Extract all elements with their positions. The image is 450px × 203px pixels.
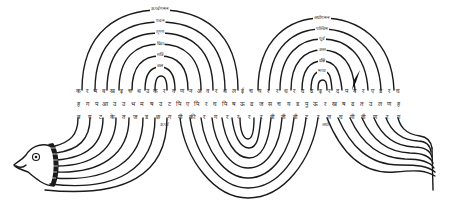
syllable: ब: [77, 112, 80, 122]
serpent-diagram: ऊर्ध्वगमन पवन तृष्ण दिवा रात्रि कल अधोगम…: [0, 0, 450, 203]
syllable: उ: [369, 99, 372, 109]
syllable: उ: [159, 99, 162, 109]
syllable: ष: [150, 99, 153, 109]
syllable: ष: [232, 99, 235, 109]
syllable: ढ: [351, 99, 354, 109]
syllable: र: [388, 86, 390, 96]
syllable: ड: [379, 86, 382, 96]
right-arch-label: मध्य: [317, 68, 327, 74]
syllable: प: [345, 86, 348, 96]
syllable: म: [140, 99, 144, 109]
syllable-row-bottom: बयटकेतजडछगगीकीरगररररवीतीवीटरलघगीवीणरग: [0, 112, 450, 122]
syllable: गी: [178, 112, 183, 122]
left-arch-label: कल: [156, 63, 164, 69]
left-arch-label: रात्रि: [156, 52, 164, 58]
syllable: त: [360, 99, 363, 109]
syllable: ज: [133, 112, 137, 122]
syllable: स: [268, 99, 272, 109]
syllable: ड: [145, 112, 148, 122]
syllable: च: [277, 99, 281, 109]
syllable-row-middle: हगपआउउभमषउटपिएपिरघपिषऊढजसचयडपुऊरखषढतउलणह: [0, 99, 450, 109]
syllable: ण: [387, 99, 391, 109]
syllable: उ: [301, 86, 304, 96]
left-arch-label: दिवा: [156, 41, 165, 47]
right-arch-label: पूर्व: [318, 36, 326, 42]
syllable: पु: [305, 99, 308, 109]
syllable: ट: [99, 112, 102, 122]
syllable: र: [276, 86, 278, 96]
syllable: ढ: [310, 86, 313, 96]
left-arch-label: तृष्ण: [155, 29, 165, 35]
syllable: र: [226, 112, 228, 122]
syllable: ग: [86, 99, 89, 109]
syllable: गी: [350, 112, 355, 122]
left-arch-label: पवन: [155, 18, 166, 24]
syllable: ख: [332, 99, 337, 109]
syllable: ख: [110, 86, 115, 96]
syllable: र: [205, 99, 207, 109]
syllable: इ: [319, 86, 322, 96]
syllable: ण: [373, 112, 377, 122]
syllable: भ: [93, 86, 97, 96]
syllable: क: [153, 86, 158, 96]
syllable: ड: [296, 99, 299, 109]
syllable: ब: [353, 86, 356, 96]
syllable: र: [293, 86, 295, 96]
syllable: क: [76, 86, 81, 96]
syllable: की: [189, 112, 196, 122]
side-label-left: ऊर्ध्व: [160, 122, 169, 128]
syllable-row-top: करभबखइचथउकरवणनअवरथलईचयररधरउढइरदपबरएडरघ: [0, 86, 450, 96]
syllable: च: [249, 86, 253, 96]
syllable: आ: [102, 99, 108, 109]
syllable: ज: [259, 99, 263, 109]
middle-u-lines: [180, 118, 318, 198]
syllable: भ: [131, 99, 135, 109]
syllable: च: [128, 86, 132, 96]
syllable: व: [206, 86, 209, 96]
syllable: र: [86, 86, 88, 96]
syllable: र: [328, 86, 330, 96]
syllable: ई: [241, 86, 244, 96]
syllable: ऊ: [313, 99, 318, 109]
syllable: र: [203, 112, 205, 122]
syllable: य: [287, 99, 290, 109]
syllable: ढ: [250, 99, 253, 109]
syllable: ऊ: [240, 99, 245, 109]
syllable: ल: [232, 86, 236, 96]
syllable: पि: [222, 99, 227, 109]
syllable: न: [189, 86, 192, 96]
right-arch-label: पश्चिम: [315, 26, 329, 32]
syllable: थ: [137, 86, 141, 96]
syllable: वी: [361, 112, 366, 122]
syllable: छ: [156, 112, 160, 122]
syllable: र: [163, 86, 165, 96]
right-arch-label: अधोगमन: [313, 15, 331, 21]
syllable: के: [110, 112, 115, 122]
syllable: अ: [197, 86, 202, 96]
syllable: द: [336, 86, 339, 96]
syllable: ट: [168, 99, 171, 109]
syllable: र: [324, 99, 326, 109]
syllable: इ: [120, 86, 123, 96]
syllable: र: [386, 112, 388, 122]
syllable: त: [122, 112, 125, 122]
syllable: वी: [270, 112, 275, 122]
syllable: ए: [186, 99, 189, 109]
syllable: उ: [122, 99, 125, 109]
syllable: घ: [396, 86, 400, 96]
syllable: ग: [397, 112, 400, 122]
syllable: र: [248, 112, 250, 122]
syllable: उ: [113, 99, 116, 109]
right-arch-label: दक्षि: [318, 58, 326, 64]
syllable: पि: [176, 99, 181, 109]
collar: [48, 143, 59, 186]
syllable: प: [95, 99, 98, 109]
syllable: य: [258, 86, 261, 96]
syllable: थ: [223, 86, 227, 96]
syllable: ल: [378, 99, 382, 109]
syllable: ब: [102, 86, 105, 96]
syllable: र: [215, 86, 217, 96]
left-arch-label: ऊर्ध्वगमन: [150, 6, 170, 12]
syllable: ट: [305, 112, 308, 122]
side-label-right: अधो: [322, 122, 329, 128]
